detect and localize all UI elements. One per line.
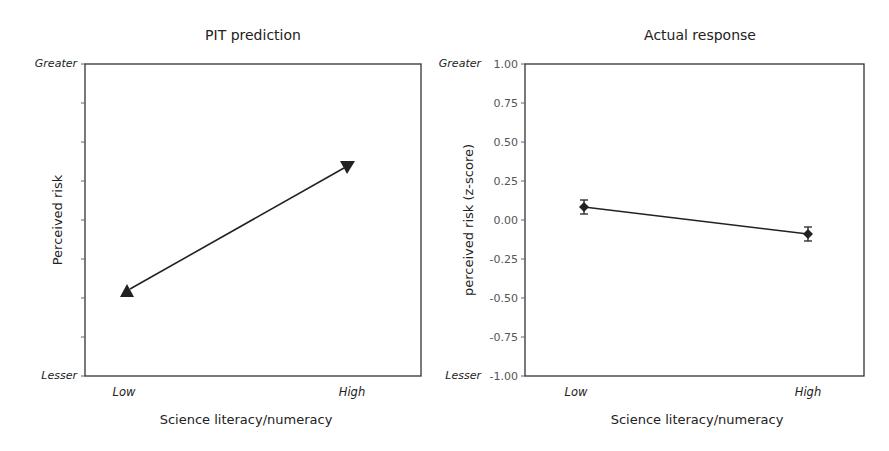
y-tick-label: -0.75 [490,331,518,344]
response-line [584,207,808,234]
right-chart-title: Actual response [644,27,756,43]
right-x-category-high: High [795,385,821,399]
left-x-category-high: High [339,385,365,399]
data-point-low [579,200,589,214]
right-top-anchor-label: Greater [439,57,483,70]
triangle-down-marker-high [340,161,355,174]
right-x-category-low: Low [565,385,588,399]
y-tick-label: 1.00 [494,58,519,71]
prediction-line [130,168,344,289]
y-tick-label: -0.50 [490,292,518,305]
left-top-anchor-label: Greater [35,57,79,70]
left-bottom-anchor-label: Lesser [41,369,78,382]
y-tick-label: 0.00 [494,214,519,227]
figure: PIT prediction Greater Lesser Perceived … [0,0,889,451]
left-x-category-low: Low [113,385,136,399]
y-tick-label: -0.25 [490,253,518,266]
diamond-marker [579,202,589,212]
right-y-axis-title: perceived risk (z-score) [461,144,476,296]
pit-prediction-panel: PIT prediction Greater Lesser Perceived … [35,27,421,427]
right-y-tick-labels: 1.00 0.75 0.50 0.25 0.00 -0.25 -0.50 -0.… [490,58,518,383]
y-tick-label: 0.50 [494,136,519,149]
data-point-high [803,227,813,241]
triangle-up-marker-low [120,284,134,297]
right-x-axis-title: Science literacy/numeracy [611,412,784,427]
left-y-axis-title: Perceived risk [50,174,65,265]
right-bottom-anchor-label: Lesser [445,369,482,382]
y-tick-label: -1.00 [490,370,518,383]
left-x-axis-title: Science literacy/numeracy [160,412,333,427]
actual-response-panel: Actual response 1.00 0.75 0.50 0.25 0.00… [439,27,864,427]
y-tick-label: 0.75 [494,97,519,110]
diamond-marker [803,229,813,239]
left-chart-title: PIT prediction [205,27,301,43]
y-tick-label: 0.25 [494,175,519,188]
